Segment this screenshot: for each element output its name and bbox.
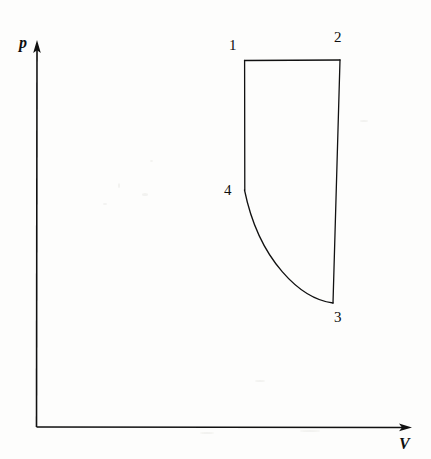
state-point-label-3: 3: [334, 310, 342, 325]
state-point-label-4: 4: [224, 183, 232, 198]
x-axis-label: V: [399, 436, 410, 452]
pv-cycle-plot: [0, 0, 431, 459]
state-point-label-1: 1: [229, 38, 237, 53]
process-3-4-path: [245, 190, 334, 303]
y-axis-label: p: [19, 35, 27, 51]
y-axis-line: [37, 50, 38, 427]
process-1-2-path: [245, 60, 341, 61]
state-point-label-2: 2: [334, 30, 342, 45]
figure-canvas: 1 2 3 4 p V: [0, 0, 431, 459]
process-2-3-path: [333, 60, 340, 303]
x-axis-line: [37, 427, 403, 428]
